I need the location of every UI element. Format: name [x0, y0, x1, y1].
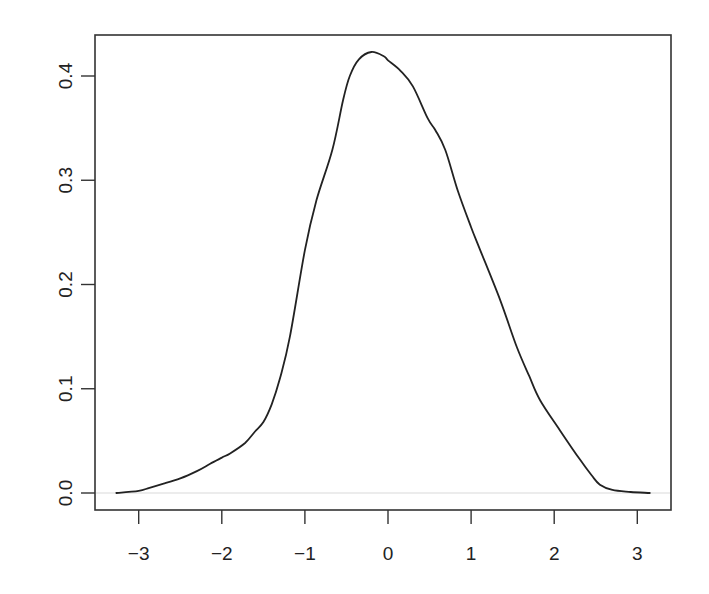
- plot-frame: [95, 35, 671, 510]
- y-tick-label: 0.1: [55, 376, 76, 402]
- x-tick-label: 2: [549, 543, 560, 564]
- density-curve: [116, 52, 650, 493]
- y-tick-label: 0.3: [55, 167, 76, 193]
- y-tick-label: 0.4: [55, 62, 76, 89]
- x-tick-label: −1: [294, 543, 316, 564]
- x-tick-label: 0: [383, 543, 394, 564]
- y-tick-label: 0.2: [55, 271, 76, 297]
- x-tick-label: 1: [466, 543, 477, 564]
- y-tick-label: 0.0: [55, 480, 76, 506]
- x-tick-label: −3: [128, 543, 150, 564]
- x-axis: −3−2−10123: [128, 510, 643, 564]
- density-plot: −3−2−10123 0.00.10.20.30.4: [0, 0, 709, 594]
- x-tick-label: 3: [632, 543, 643, 564]
- x-tick-label: −2: [211, 543, 233, 564]
- y-axis: 0.00.10.20.30.4: [55, 62, 95, 506]
